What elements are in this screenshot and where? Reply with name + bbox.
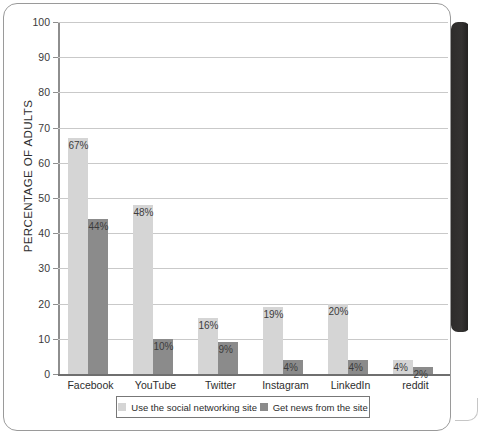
bar-value-label: 19% xyxy=(264,309,284,320)
bar-value-label: 4% xyxy=(349,362,363,373)
bar-youtube-use xyxy=(133,205,153,374)
y-tick-label: 50 xyxy=(2,192,50,204)
y-tick-label: 30 xyxy=(2,262,50,274)
y-tick-label: 100 xyxy=(2,16,50,28)
bar-value-label: 10% xyxy=(154,341,174,352)
bar-value-label: 4% xyxy=(284,362,298,373)
bar-value-label: 67% xyxy=(69,140,89,151)
x-tick-label-linkedin: LinkedIn xyxy=(318,379,383,391)
gridline xyxy=(58,92,448,93)
bar-facebook-news xyxy=(88,219,108,374)
gridline xyxy=(58,128,448,129)
y-tick-label: 60 xyxy=(2,157,50,169)
x-tick-label-instagram: Instagram xyxy=(253,379,318,391)
bar-value-label: 20% xyxy=(329,306,349,317)
y-tick-label: 10 xyxy=(2,333,50,345)
gridline xyxy=(58,198,448,199)
y-tick-label: 0 xyxy=(2,368,50,380)
x-tick-label-reddit: reddit xyxy=(383,379,448,391)
bar-value-label: 44% xyxy=(89,221,109,232)
y-tick-label: 40 xyxy=(2,227,50,239)
bar-facebook-use xyxy=(68,138,88,374)
y-tick-label: 80 xyxy=(2,86,50,98)
gridline xyxy=(58,304,448,305)
legend-label-news: Get news from the site xyxy=(273,402,368,413)
legend-item-use: Use the social networking site xyxy=(118,402,257,413)
legend-item-news: Get news from the site xyxy=(260,402,368,413)
y-tick-label: 20 xyxy=(2,298,50,310)
gridline xyxy=(58,233,448,234)
bar-value-label: 48% xyxy=(134,207,154,218)
gridline xyxy=(58,57,448,58)
x-axis-line xyxy=(58,374,450,376)
legend-label-use: Use the social networking site xyxy=(131,402,257,413)
y-tick-label: 70 xyxy=(2,122,50,134)
chart-legend: Use the social networking site Get news … xyxy=(116,396,370,418)
x-tick-label-youtube: YouTube xyxy=(123,379,188,391)
y-tick-label: 90 xyxy=(2,51,50,63)
gridline xyxy=(58,339,448,340)
legend-swatch-news-icon xyxy=(260,403,268,411)
bar-chart: PERCENTAGE OF ADULTS 0102030405060708090… xyxy=(0,0,480,435)
gridline xyxy=(58,22,448,23)
x-tick-label-facebook: Facebook xyxy=(58,379,123,391)
gridline xyxy=(58,163,448,164)
legend-swatch-use-icon xyxy=(118,403,126,411)
y-axis-title: PERCENTAGE OF ADULTS xyxy=(22,76,34,276)
bar-value-label: 9% xyxy=(219,344,233,355)
gridline xyxy=(58,268,448,269)
bar-value-label: 4% xyxy=(394,362,408,373)
x-tick-label-twitter: Twitter xyxy=(188,379,253,391)
bar-value-label: 16% xyxy=(199,320,219,331)
y-tick-mark xyxy=(53,374,58,375)
